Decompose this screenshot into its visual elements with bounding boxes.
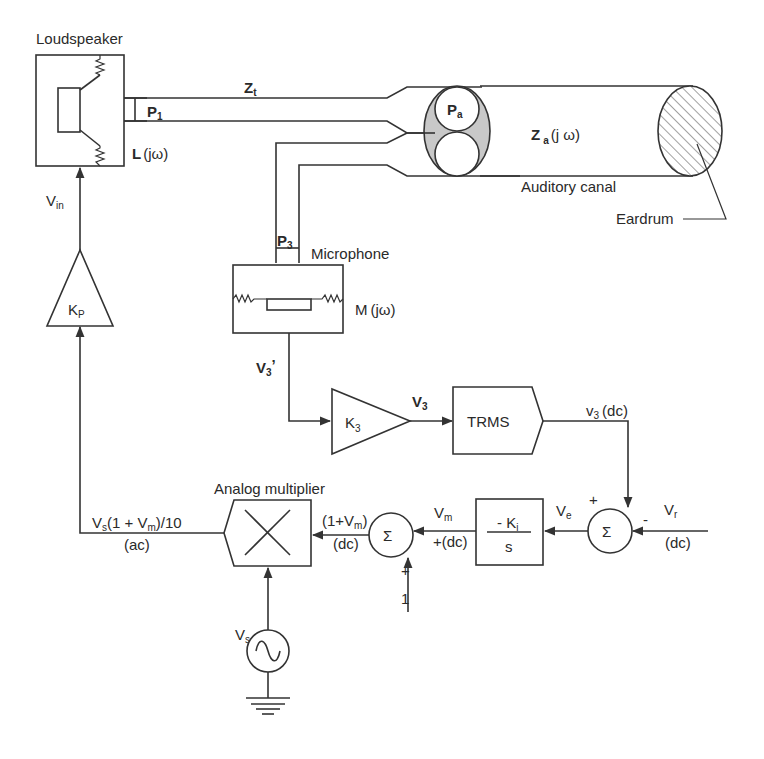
svg-text:- Ki: - Ki (497, 514, 518, 533)
vs-label: Vs (235, 626, 250, 645)
diaphragm-icon (267, 299, 311, 310)
vin-label: Vin (46, 192, 64, 211)
analog-multiplier: Analog multiplier Vs (214, 480, 325, 714)
ground-icon (246, 698, 290, 714)
integrator: Ve - Ki s Vm +(dc) (414, 499, 588, 565)
svg-text:+: + (401, 562, 410, 579)
tube-impedance-label: Zt (244, 79, 257, 98)
offset-summing-junction: Σ + 1 (1+Vm) (dc) (313, 512, 413, 612)
svg-text:+(dc): +(dc) (433, 533, 468, 550)
feedback-control-diagram: Loudspeaker L(jω) Zt P1 P3 Pa (0, 0, 764, 759)
loudspeaker-transfer: L(jω) (132, 145, 168, 162)
svg-text:Σ: Σ (383, 527, 392, 544)
multiplier-label: Analog multiplier (214, 480, 325, 497)
constant-one: 1 (401, 590, 409, 607)
vr-label: Vr (664, 501, 678, 520)
error-summing-junction: Σ + - Vr (dc) (588, 491, 708, 553)
svg-text:s: s (505, 538, 513, 555)
svg-text:-: - (643, 511, 648, 528)
canal-impedance-label: Za(j ω) (531, 126, 580, 146)
one-plus-vm-label: (1+Vm) (322, 512, 367, 531)
eardrum-hatch-icon (658, 86, 722, 176)
v3-label: V3 (412, 393, 428, 412)
svg-text:+: + (589, 491, 598, 508)
amplifier-k3 (332, 389, 410, 454)
loudspeaker-magnet-icon (58, 88, 80, 132)
microphone-label: Microphone (311, 245, 389, 262)
v3-prime-label: V3’ (256, 356, 276, 378)
p3-label: P3 (277, 232, 293, 251)
vm-label: Vm (434, 504, 452, 523)
trms-label: TRMS (467, 413, 510, 430)
vr-dc-label: (dc) (665, 534, 691, 551)
probe-junction: Pa (407, 86, 490, 176)
auditory-canal: Za(j ω) Auditory canal Eardrum (480, 86, 726, 227)
eardrum-label: Eardrum (616, 210, 674, 227)
microphone: Microphone M(jω) (233, 245, 396, 333)
microphone-transfer: M(jω) (355, 301, 396, 318)
auditory-canal-label: Auditory canal (521, 178, 616, 195)
svg-text:Σ: Σ (602, 523, 611, 540)
v3-dc-label: v3(dc) (586, 402, 628, 421)
svg-text:(ac): (ac) (124, 536, 150, 553)
ve-label: Ve (556, 502, 572, 521)
multiplier-output-label: Vs(1 + Vm)/10 (92, 514, 182, 533)
loudspeaker-label: Loudspeaker (36, 30, 123, 47)
p1-label: P1 (147, 103, 163, 122)
svg-text:(dc): (dc) (333, 535, 359, 552)
drive-path: Vs(1 + Vm)/10 (ac) KP Vin (46, 168, 224, 553)
